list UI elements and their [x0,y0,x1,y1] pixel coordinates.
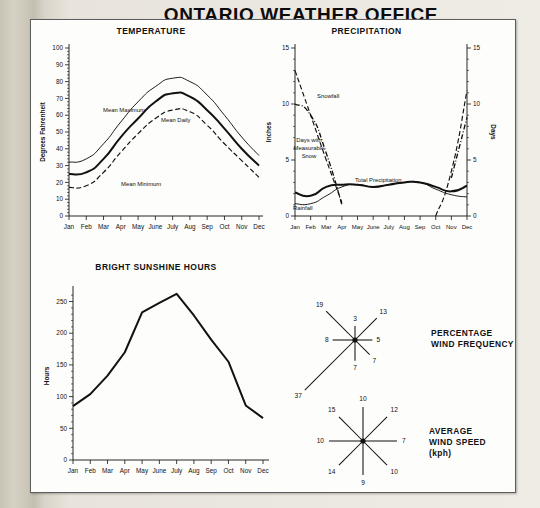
sunshine-x-tick-label: Dec [257,467,269,474]
temperature-x-tick-label: Sep [201,223,213,231]
wind-speed-value-e: 7 [402,437,406,444]
precipitation-x-tick-label: June [367,224,381,230]
sunshine-x-tick-label: May [136,467,149,475]
wind-speed-value-s: 9 [361,479,365,486]
panel-sunshine: BRIGHT SUNSHINE HOURS 250200150100500Jan… [31,262,281,488]
temperature-y-tick-label: 20 [56,179,64,186]
temperature-y-tick-label: 40 [56,145,64,152]
precipitation-x-tick-label: Oct [431,224,441,230]
sunshine-chart-title: BRIGHT SUNSHINE HOURS [31,262,281,272]
sunshine-y-tick-label: 200 [56,329,67,336]
temperature-label-mean-daily: Mean Daily [161,117,191,123]
sunshine-x-tick-label: Jan [68,467,79,474]
sunshine-x-tick-label: Feb [85,467,96,474]
wind-speed-value-se: 10 [391,468,399,475]
temperature-x-tick-label: Mar [98,223,110,230]
temperature-y-tick-label: 100 [52,44,63,51]
temperature-label-mean-maximum: Mean Maximum [103,107,145,113]
precipitation-label-days-measurable-snow: Snow [302,153,317,159]
sunshine-series-bright-sunshine-hours [73,294,263,418]
wind-speed-arm-ne [363,417,387,441]
document-sheet: ONTARIO WEATHER OFFICE TEMPERATURE 10090… [30,19,516,493]
wind-speed-value-w: 10 [317,437,325,444]
sunshine-y-tick-label: 100 [56,393,67,400]
precipitation-label-days-measurable-snow: Measurable [294,145,326,151]
precipitation-series-1 [451,117,467,177]
temperature-x-tick-label: May [132,223,145,231]
precipitation-y-tick-label-left: 0 [285,212,289,219]
temperature-y-tick-label: 70 [56,95,64,102]
precipitation-label-rainfall: Rainfall [293,205,313,211]
temperature-series-1 [69,92,259,174]
temperature-x-tick-label: June [148,223,162,230]
document-title: ONTARIO WEATHER OFFICE [31,4,540,19]
wind-speed-arm-se [363,441,387,465]
wind-frequency-value-w: 8 [325,336,329,343]
precipitation-x-tick-label: July [383,224,394,230]
precipitation-x-tick-label: Nov [446,224,457,230]
wind-frequency-center [352,337,357,342]
sunshine-x-tick-label: Sep [205,467,217,475]
sunshine-x-tick-label: July [171,467,183,475]
precipitation-label-snowfall: Snowfall [317,93,339,99]
wind-frequency-caption-line-2: WIND FREQUENCY [431,339,514,349]
temperature-y-tick-label: 60 [56,111,64,118]
temperature-x-tick-label: Nov [236,223,248,230]
wind-frequency-value-e: 5 [376,336,380,343]
precipitation-x-tick-label: Aug [399,224,410,230]
sunshine-chart: 250200150100500JanFebMarAprMayJuneJulyAu… [31,262,281,488]
wind-frequency-value-se: 7 [372,357,376,364]
temperature-x-tick-label: Jan [64,223,75,230]
wind-speed-caption-line-3: (kph) [429,448,451,458]
precipitation-chart-title: PRECIPITATION [259,26,474,36]
temperature-chart-title: TEMPERATURE [31,26,271,36]
precipitation-label-days-measurable-snow: Days with [296,137,322,143]
temperature-x-tick-label: July [167,223,179,231]
temperature-x-tick-label: Feb [81,223,92,230]
sunshine-y-tick-label: 0 [63,456,67,463]
sunshine-x-tick-label: Oct [223,467,233,474]
precipitation-x-tick-label: May [352,224,363,230]
temperature-y-tick-label: 0 [59,212,63,219]
wind-frequency-value-s: 7 [353,364,357,371]
wind-speed-value-nw: 15 [328,406,336,413]
precipitation-y-tick-label-left: 15 [282,44,290,51]
sunshine-x-tick-label: Mar [102,467,114,474]
temperature-y-tick-label: 80 [56,78,64,85]
precipitation-x-tick-label: Feb [305,224,316,230]
wind-speed-caption-line-2: WIND SPEED [429,437,486,447]
wind-speed-value-ne: 12 [391,406,399,413]
sunshine-x-tick-label: June [152,467,166,474]
sunshine-y-tick-label: 150 [56,361,67,368]
temperature-y-tick-label: 10 [56,195,64,202]
precipitation-series-0 [436,91,467,216]
sunshine-x-tick-label: Apr [120,467,131,475]
wind-frequency-arm-sw [305,340,355,390]
precipitation-chart: 151050151050JanFebMarAprMayJuneJulyAugSe… [259,26,515,242]
precipitation-y-tick-label-left: 10 [282,100,290,107]
temperature-chart: 1009080706050403020100JanFebMarAprMayJun… [31,26,271,242]
temperature-y-tick-label: 50 [56,128,64,135]
wind-speed-value-sw: 14 [328,468,336,475]
sunshine-x-tick-label: Nov [240,467,252,474]
precipitation-series-3 [295,181,467,204]
wind-speed-arm-sw [339,441,363,465]
panel-precipitation: PRECIPITATION 151050151050JanFebMarAprMa… [259,26,515,242]
wind-frequency-arm-ne [355,318,377,340]
precipitation-y-tick-label-right: 5 [473,156,477,163]
wind-speed-arm-nw [339,417,363,441]
precipitation-y-tick-label-right: 10 [473,100,481,107]
wind-rose-charts: 31357737819PERCENTAGEWIND FREQUENCY10127… [279,268,515,488]
temperature-x-tick-label: Apr [116,223,127,231]
temperature-label-mean-minimum: Mean Minimum [121,181,161,187]
precipitation-x-tick-label: Dec [462,224,473,230]
precipitation-x-tick-label: Apr [337,224,346,230]
panel-temperature: TEMPERATURE 1009080706050403020100JanFeb… [31,26,271,242]
precipitation-series-2 [295,182,467,197]
wind-speed-caption-line-1: AVERAGE [429,426,473,436]
sunshine-y-tick-label: 250 [56,298,67,305]
precipitation-y-axis-label-right: Days [489,124,497,140]
precipitation-y-tick-label-right: 15 [473,44,481,51]
precipitation-x-tick-label: Mar [321,224,331,230]
wind-speed-center [360,438,365,443]
